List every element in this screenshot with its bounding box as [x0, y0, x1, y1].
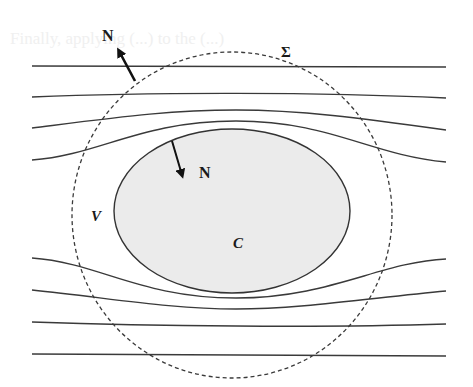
- streamline-1: [32, 66, 446, 67]
- label-c: C: [233, 235, 244, 251]
- streamline-8: [32, 354, 446, 356]
- label-v: V: [91, 208, 103, 224]
- bleed-through-text: Finally, applying (...) to the (...): [10, 29, 224, 48]
- label-n-outer: N: [102, 27, 114, 44]
- streamline-3: [32, 110, 446, 130]
- streamline-2: [32, 93, 446, 98]
- flow-diagram: Finally, applying (...) to the (...) N N…: [0, 0, 473, 387]
- label-sigma: Σ: [281, 44, 291, 60]
- label-n-inner: N: [199, 164, 211, 181]
- body-c: [114, 129, 350, 293]
- streamline-7: [32, 322, 446, 326]
